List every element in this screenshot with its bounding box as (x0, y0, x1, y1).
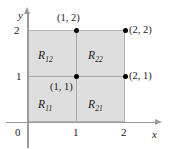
y-axis-label: y (18, 10, 23, 21)
math-figure-coordinate-grid: y x 2 1 0 1 2 R12 R22 R11 R21 (1, 2) (2,… (0, 0, 172, 149)
x-tick-label-2: 2 (121, 127, 127, 138)
region-label-r21: R21 (88, 99, 103, 111)
region-subscript-r22: 22 (95, 55, 103, 64)
x-tick-label-1: 1 (73, 127, 79, 138)
y-axis-arrow-icon (24, 7, 30, 14)
point-dot-2-1 (123, 74, 128, 79)
point-label-1-1: (1, 1) (50, 82, 73, 93)
region-base-r11: R (38, 98, 45, 110)
y-tick-label-1: 1 (16, 71, 22, 82)
region-subscript-r21: 21 (95, 104, 103, 113)
y-axis (27, 12, 29, 148)
region-label-r22: R22 (88, 50, 103, 62)
point-label-2-1: (2, 1) (129, 71, 152, 82)
point-dot-2-2 (123, 28, 128, 33)
region-subscript-r12: 12 (45, 55, 53, 64)
point-dot-1-1 (74, 74, 79, 79)
region-subscript-r11: 11 (45, 104, 52, 113)
point-dot-1-2 (74, 28, 79, 33)
point-label-2-2: (2, 2) (129, 25, 152, 36)
region-base-r12: R (38, 49, 45, 61)
region-base-r21: R (88, 98, 95, 110)
region-label-r12: R12 (38, 50, 53, 62)
x-axis-label: x (152, 129, 157, 140)
region-base-r22: R (88, 49, 95, 61)
origin-label: 0 (15, 127, 21, 138)
point-label-1-2: (1, 2) (57, 13, 80, 24)
x-axis-arrow-icon (155, 119, 162, 125)
x-axis (6, 122, 158, 124)
region-label-r11: R11 (38, 99, 52, 111)
y-tick-label-2: 2 (14, 25, 20, 36)
